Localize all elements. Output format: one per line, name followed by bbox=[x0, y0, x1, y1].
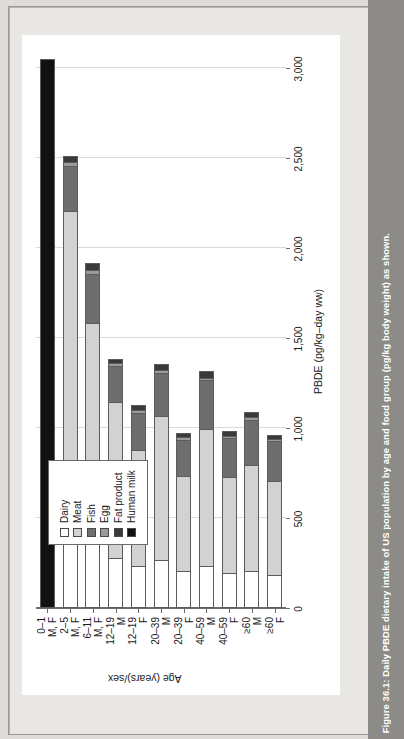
bar-segment-fat-product bbox=[267, 434, 282, 439]
chart-legend: DairyMeatFishEggFat productHuman milk bbox=[48, 460, 148, 545]
category-tick bbox=[70, 609, 71, 613]
legend-item-meat: Meat bbox=[72, 470, 83, 537]
bar-segment-fat-product bbox=[85, 263, 100, 271]
category-tick bbox=[47, 609, 48, 613]
category-sex: F bbox=[275, 617, 286, 695]
category-label: 40–59F bbox=[218, 617, 240, 695]
legend-swatch-icon bbox=[87, 528, 96, 537]
legend-swatch-icon bbox=[100, 528, 109, 537]
legend-item-label: Fish bbox=[86, 504, 97, 523]
legend-item-egg: Egg bbox=[99, 470, 110, 537]
bar-10 bbox=[244, 411, 259, 607]
x-axis-title: Age (years)/sex bbox=[108, 684, 182, 685]
category-sex: M, F bbox=[70, 617, 81, 695]
category-tick bbox=[252, 609, 253, 613]
bar-segment-meat bbox=[154, 417, 169, 561]
legend-item-fish: Fish bbox=[86, 470, 97, 537]
bar-9 bbox=[222, 431, 237, 608]
bar-segment-dairy bbox=[244, 572, 259, 608]
legend-item-label: Human milk bbox=[126, 470, 137, 523]
category-sex: M, F bbox=[93, 617, 104, 695]
bar-segment-meat bbox=[222, 478, 237, 573]
bar-segment-meat bbox=[199, 429, 214, 566]
legend-item-fat-product: Fat product bbox=[113, 470, 124, 537]
bar-7 bbox=[176, 433, 191, 608]
bar-8 bbox=[199, 371, 214, 608]
legend-swatch-icon bbox=[73, 528, 82, 537]
value-axis-label: 3,000 bbox=[293, 56, 304, 81]
category-tick bbox=[116, 609, 117, 613]
category-tick bbox=[275, 609, 276, 613]
value-axis-label: 1,500 bbox=[293, 326, 304, 351]
bar-segment-fat-product bbox=[244, 411, 259, 417]
category-age: 40–59 bbox=[195, 617, 206, 695]
bar-segment-dairy bbox=[222, 573, 237, 607]
legend-item-label: Egg bbox=[99, 505, 110, 523]
category-tick bbox=[138, 609, 139, 613]
category-sex: M, F bbox=[47, 617, 58, 695]
category-tick bbox=[229, 609, 230, 613]
category-tick bbox=[184, 609, 185, 613]
y-axis-title: PBDE (pg/kg–day ww) bbox=[312, 288, 324, 393]
value-axis-tick bbox=[286, 518, 290, 519]
value-axis-tick bbox=[286, 338, 290, 339]
bar-segment-fat-product bbox=[199, 371, 214, 378]
legend-swatch-icon bbox=[60, 528, 69, 537]
legend-item-human-milk: Human milk bbox=[126, 470, 137, 537]
bar-6 bbox=[154, 364, 169, 608]
bar-segment-fat-product bbox=[108, 358, 123, 363]
legend-item-dairy: Dairy bbox=[59, 470, 70, 537]
category-age: 6–11 bbox=[82, 617, 93, 695]
chart-figure: 05001,0001,5002,0002,5003,0000–1M, F2–5M… bbox=[22, 35, 340, 695]
value-axis-label: 2,500 bbox=[293, 146, 304, 171]
value-axis-label: 500 bbox=[293, 510, 304, 527]
bar-segment-dairy bbox=[154, 561, 169, 608]
category-label: ≥60F bbox=[264, 617, 286, 695]
category-age: ≥60 bbox=[264, 617, 275, 695]
category-label: 40–59M bbox=[195, 617, 217, 695]
category-age: 40–59 bbox=[218, 617, 229, 695]
category-label: 2–5M, F bbox=[59, 617, 81, 695]
legend-item-label: Dairy bbox=[59, 499, 70, 522]
bar-segment-dairy bbox=[199, 566, 214, 607]
value-axis-tick bbox=[286, 248, 290, 249]
value-axis-tick bbox=[286, 428, 290, 429]
bar-segment-fish bbox=[222, 438, 237, 478]
bar-segment-fish bbox=[131, 413, 146, 451]
bar-segment-dairy bbox=[267, 575, 282, 607]
bar-segment-fat-product bbox=[222, 431, 237, 436]
category-age: ≥60 bbox=[241, 617, 252, 695]
bar-segment-fish bbox=[176, 440, 191, 476]
bar-segment-dairy bbox=[131, 566, 146, 607]
bar-segment-meat bbox=[267, 482, 282, 576]
bar-segment-meat bbox=[176, 476, 191, 571]
bar-segment-fish bbox=[154, 374, 169, 417]
category-sex: M bbox=[252, 617, 263, 695]
page-background: 05001,0001,5002,0002,5003,0000–1M, F2–5M… bbox=[0, 0, 404, 739]
bar-segment-fish bbox=[244, 420, 259, 465]
category-label: 0–1M, F bbox=[36, 617, 58, 695]
rotated-figure-wrapper: 05001,0001,5002,0002,5003,0000–1M, F2–5M… bbox=[22, 35, 340, 695]
bar-segment-dairy bbox=[176, 572, 191, 608]
category-sex: F bbox=[229, 617, 240, 695]
legend-swatch-icon bbox=[127, 528, 136, 537]
bar-segment-fish bbox=[267, 442, 282, 482]
category-sex: F bbox=[184, 617, 195, 695]
bar-segment-fat-product bbox=[131, 404, 146, 410]
category-age: 2–5 bbox=[59, 617, 70, 695]
value-axis-label: 1,000 bbox=[293, 416, 304, 441]
bar-segment-fish bbox=[199, 381, 214, 430]
category-age: 0–1 bbox=[36, 617, 47, 695]
gridline bbox=[36, 67, 286, 68]
bar-11 bbox=[267, 434, 282, 607]
figure-paper: 05001,0001,5002,0002,5003,0000–1M, F2–5M… bbox=[8, 6, 370, 735]
bar-segment-fat-product bbox=[154, 364, 169, 371]
category-sex: M bbox=[206, 617, 217, 695]
bar-segment-egg bbox=[85, 271, 100, 275]
figure-caption: Figure 36.1: Daily PBDE dietary intake o… bbox=[368, 0, 404, 739]
legend-swatch-icon bbox=[114, 528, 123, 537]
figure-caption-text: Figure 36.1: Daily PBDE dietary intake o… bbox=[368, 225, 404, 739]
bar-segment-fat-product bbox=[63, 156, 78, 163]
bar-segment-egg bbox=[63, 163, 78, 167]
legend-item-label: Meat bbox=[72, 500, 83, 522]
